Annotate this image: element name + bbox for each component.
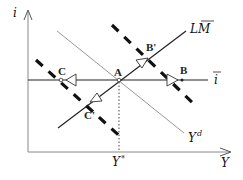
arrow-C-to-A — [66, 74, 76, 86]
label-A: A — [114, 66, 122, 78]
yd-label: Y — [188, 131, 197, 145]
arrow-A-to-Bprime — [136, 58, 148, 68]
arrow-A-to-B — [167, 74, 178, 86]
label-B-prime: B' — [146, 41, 156, 53]
x-axis-label: Y — [221, 156, 230, 170]
point-A — [117, 78, 121, 82]
dashed-line-lower — [36, 60, 124, 140]
arrow-Cprime-to-A — [90, 93, 102, 102]
ystar-superscript: * — [121, 154, 125, 163]
label-C: C — [58, 65, 66, 77]
label-C-prime: C' — [84, 109, 95, 121]
label-B: B — [180, 64, 188, 76]
ystar-label: Y — [112, 155, 121, 169]
lm-label: LM — [189, 22, 211, 36]
ibar-label: i — [214, 73, 218, 87]
y-axis-label: i — [13, 6, 17, 20]
yd-superscript: d — [197, 129, 202, 138]
point-B — [181, 79, 184, 82]
point-C — [59, 78, 63, 82]
diagram-canvas: i Y Y d i LM Y * A B B' C C' — [0, 0, 243, 180]
